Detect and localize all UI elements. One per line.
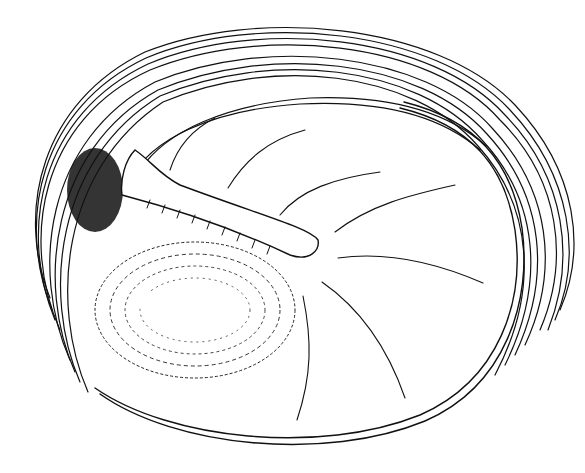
malleus-handle xyxy=(122,150,319,257)
eardrum-illustration xyxy=(0,0,585,473)
radial-lines xyxy=(170,118,483,420)
light-reflex-hatching xyxy=(95,242,295,378)
shadow-region xyxy=(67,148,123,232)
